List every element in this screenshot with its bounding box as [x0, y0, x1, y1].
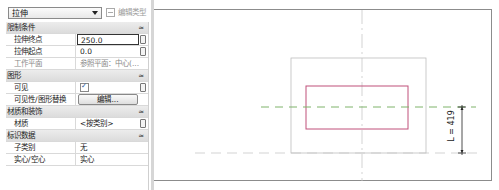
category-label: 图形: [7, 71, 21, 81]
reference-boundary-rect[interactable]: [291, 58, 426, 153]
chevron-down-icon: [92, 11, 98, 15]
drawing-canvas[interactable]: [154, 9, 492, 181]
category-label: 限制条件: [7, 23, 35, 33]
type-selector-dropdown[interactable]: 拉伸: [8, 7, 102, 19]
edit-type-label: 编辑类型: [118, 7, 146, 19]
property-row-solid-void[interactable]: 实心/空心 实心: [6, 154, 148, 166]
property-name: 材质: [6, 118, 76, 129]
property-row-subcategory[interactable]: 子类别 无: [6, 142, 148, 154]
associate-parameter-button[interactable]: [140, 119, 146, 128]
property-name: 拉伸起点: [6, 46, 76, 57]
property-row-visibility-overrides[interactable]: 可见性/图形替换 编辑...: [6, 94, 148, 106]
property-row-material[interactable]: 材质 <按类别>: [6, 118, 148, 130]
category-materials[interactable]: 材质和装饰 ≈: [6, 106, 148, 118]
properties-panel: 拉伸 编辑类型 限制条件 ≈ 拉伸终点 250.0 拉伸起点 0.0 工作平面 …: [0, 0, 151, 190]
dimension-label[interactable]: L = 419: [447, 104, 457, 148]
collapse-icon[interactable]: ≈: [138, 23, 144, 33]
subcategory-value[interactable]: 无: [77, 142, 139, 153]
edit-type-icon: [106, 8, 115, 17]
property-row-extrusion-end[interactable]: 拉伸终点 250.0: [6, 34, 148, 46]
collapse-icon[interactable]: ≈: [138, 107, 144, 117]
property-name: 子类别: [6, 142, 76, 153]
category-constraints[interactable]: 限制条件 ≈: [6, 22, 148, 34]
solid-void-value[interactable]: 实心: [77, 154, 139, 165]
collapse-icon[interactable]: ≈: [138, 131, 144, 141]
collapse-icon[interactable]: ≈: [138, 71, 144, 81]
visible-checkbox-cell: [77, 82, 139, 93]
property-row-extrusion-start[interactable]: 拉伸起点 0.0: [6, 46, 148, 58]
category-identity-data[interactable]: 标识数据 ≈: [6, 130, 148, 142]
extrusion-start-input[interactable]: 0.0: [77, 46, 139, 57]
associate-parameter-button[interactable]: [140, 47, 146, 56]
edit-type-button[interactable]: 编辑类型: [106, 7, 150, 19]
property-name: 实心/空心: [6, 154, 76, 165]
category-graphics[interactable]: 图形 ≈: [6, 70, 148, 82]
associate-parameter-button[interactable]: [140, 35, 146, 44]
property-name: 拉伸终点: [6, 34, 76, 45]
visibility-edit-button[interactable]: 编辑...: [78, 94, 138, 105]
category-label: 材质和装饰: [7, 107, 42, 117]
dimension-arrow-bottom-icon: [461, 150, 464, 153]
category-label: 标识数据: [7, 131, 35, 141]
visible-checkbox[interactable]: [80, 83, 89, 92]
property-row-work-plane: 工作平面 参照平面：中心(...: [6, 58, 148, 70]
panel-scrollbar-track[interactable]: [148, 22, 149, 190]
material-value[interactable]: <按类别>: [77, 118, 139, 129]
properties-grid: 限制条件 ≈ 拉伸终点 250.0 拉伸起点 0.0 工作平面 参照平面：中心(…: [6, 22, 148, 166]
drawing-svg: [154, 10, 492, 182]
work-plane-value: 参照平面：中心(...: [77, 58, 139, 69]
property-row-visible[interactable]: 可见: [6, 82, 148, 94]
property-name: 工作平面: [6, 58, 76, 69]
property-name: 可见: [6, 82, 76, 93]
extrusion-end-input[interactable]: 250.0: [77, 34, 139, 45]
property-name: 可见性/图形替换: [6, 94, 76, 105]
type-selector-value: 拉伸: [12, 9, 28, 19]
associate-parameter-button[interactable]: [140, 83, 146, 92]
